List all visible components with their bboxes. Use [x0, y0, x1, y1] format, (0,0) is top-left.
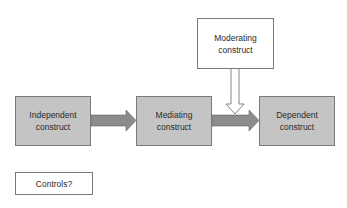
mediating-construct-box: Mediating construct — [136, 96, 212, 146]
mediating-label-line2: construct — [156, 121, 193, 133]
independent-construct-box: Independent construct — [15, 96, 91, 146]
mediating-label-line1: Mediating — [156, 109, 193, 121]
dependent-construct-box: Dependent construct — [259, 96, 335, 146]
arrow-moderating-hollow — [226, 68, 244, 114]
dependent-label-line2: construct — [276, 121, 318, 133]
controls-box: Controls? — [15, 172, 93, 195]
independent-label-line2: construct — [29, 121, 76, 133]
dependent-label-line1: Dependent — [276, 109, 318, 121]
moderating-label-line1: Moderating — [214, 32, 257, 44]
controls-label: Controls? — [36, 178, 72, 190]
moderating-construct-box: Moderating construct — [197, 18, 274, 69]
arrow-independent-to-mediating — [91, 110, 136, 131]
independent-label-line1: Independent — [29, 109, 76, 121]
moderating-label-line2: construct — [214, 44, 257, 56]
